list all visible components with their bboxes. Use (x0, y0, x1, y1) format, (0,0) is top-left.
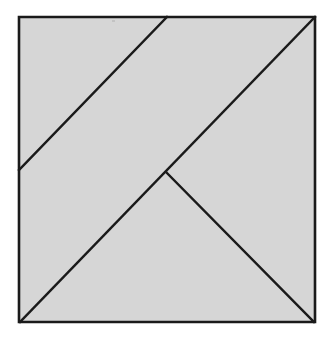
figure-root: Tangram square dissection A square outli… (0, 0, 334, 340)
tangram-diagram: Tangram square dissection A square outli… (0, 0, 334, 340)
scan-speck (112, 20, 115, 22)
